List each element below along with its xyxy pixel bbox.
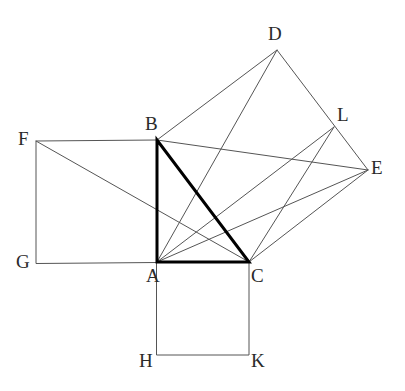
line-A-to-D bbox=[157, 50, 277, 262]
bold-line-layer bbox=[157, 140, 249, 262]
vertex-label-F: F bbox=[18, 129, 29, 148]
geometry-canvas bbox=[0, 0, 405, 391]
thin-line-layer bbox=[36, 50, 368, 355]
vertex-label-C: C bbox=[251, 266, 264, 285]
vertex-label-H: H bbox=[139, 351, 153, 370]
vertex-label-D: D bbox=[268, 24, 282, 43]
vertex-label-E: E bbox=[371, 158, 383, 177]
square-abfg bbox=[36, 140, 157, 263]
geometry-figure: A B C D E F G H K L bbox=[0, 0, 405, 391]
vertex-label-G: G bbox=[16, 252, 30, 271]
line-C-to-L bbox=[249, 127, 334, 262]
line-B-to-E bbox=[157, 140, 368, 170]
vertex-label-B: B bbox=[145, 114, 158, 133]
square-achk bbox=[157, 262, 249, 355]
line-A-to-L bbox=[157, 127, 334, 262]
square-bdec bbox=[157, 50, 368, 262]
line-F-to-C bbox=[36, 141, 249, 262]
triangle-abc bbox=[157, 140, 249, 262]
vertex-label-A: A bbox=[146, 266, 160, 285]
vertex-label-L: L bbox=[337, 105, 349, 124]
vertex-label-K: K bbox=[251, 351, 265, 370]
